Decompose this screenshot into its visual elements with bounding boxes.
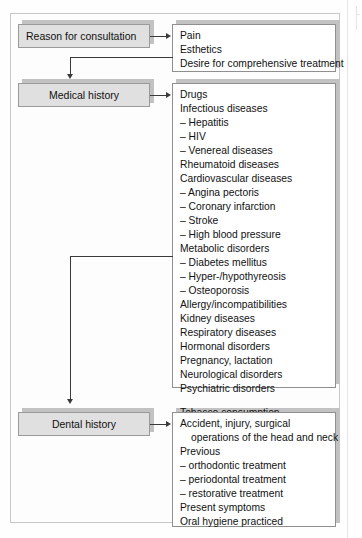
diagram-page: Reason for consultation Pain Esthetics D… [0,0,362,538]
list-item: Psychiatric disorders [180,382,330,396]
connector-flow2-vertical [70,256,71,400]
connector-reason-to-list [150,36,166,37]
list-item: Metabolic disorders [180,242,330,256]
list-item: – HIV [180,130,330,144]
list-item: Neurological disorders [180,368,330,382]
list-item: Respiratory diseases [180,326,330,340]
list-item: Infectious diseases [180,102,330,116]
scan-edge-artifact [356,14,360,15]
list-box-medical-history: Drugs Infectious diseases – Hepatitis – … [172,83,336,388]
list-item: Previous [180,445,330,459]
list-item: – High blood pressure [180,228,330,242]
scan-edge-artifact [347,0,348,538]
list-item-spacer [180,396,330,406]
list-item: – periodontal treatment [180,473,330,487]
list-box-reason-for-consultation: Pain Esthetics Desire for comprehensive … [172,24,336,72]
list-item: – Diabetes mellitus [180,256,330,270]
list-item: Drugs [180,88,330,102]
list-item: – Hepatitis [180,116,330,130]
connector-flow2-horizontal [70,256,173,257]
list-item-continuation: operations of the head and neck [180,431,330,445]
list-item: – Osteoporosis [180,284,330,298]
list-item: Kidney diseases [180,312,330,326]
list-item: – Coronary infarction [180,200,330,214]
label-box-medical-history[interactable]: Medical history [18,83,150,107]
connector-dental-to-list [150,424,166,425]
scan-edge-artifact [356,6,357,30]
label-text-medical-history: Medical history [19,89,149,101]
list-item: Present symptoms [180,501,330,515]
list-item: Esthetics [180,43,330,57]
list-item: – Hyper-/hypothyreosis [180,270,330,284]
arrow-down-to-dental-history [67,399,73,404]
list-item: Pain [180,29,330,43]
arrow-down-to-medical-history [67,74,73,79]
list-item: Accident, injury, surgical [180,417,330,431]
label-box-dental-history[interactable]: Dental history [18,412,150,436]
label-text-reason-for-consultation: Reason for consultation [19,30,149,42]
arrow-right-reason [166,33,171,39]
list-item: – Angina pectoris [180,186,330,200]
arrow-right-medical [166,92,171,98]
list-item: Cardiovascular diseases [180,172,330,186]
list-box-dental-history: Accident, injury, surgical operations of… [172,412,336,527]
list-item: Oral hygiene practiced [180,515,330,529]
connector-medical-to-list [150,95,166,96]
list-item: Allergy/incompatibilities [180,298,330,312]
label-box-reason-for-consultation[interactable]: Reason for consultation [18,24,150,48]
list-dental-items: Accident, injury, surgical operations of… [180,417,330,529]
list-item: – Venereal diseases [180,144,330,158]
list-item: – orthodontic treatment [180,459,330,473]
list-item: Desire for comprehensive treatment [180,57,330,71]
list-reason-items: Pain Esthetics Desire for comprehensive … [180,29,330,71]
list-item: Hormonal disorders [180,340,330,354]
list-item: Rheumatoid diseases [180,158,330,172]
arrow-right-dental [166,421,171,427]
label-text-dental-history: Dental history [19,418,149,430]
list-item: Pregnancy, lactation [180,354,330,368]
connector-flow1-horizontal [70,57,173,58]
connector-flow1-vertical [70,57,71,75]
list-item: – Stroke [180,214,330,228]
list-item: – restorative treatment [180,487,330,501]
list-medical-items: Drugs Infectious diseases – Hepatitis – … [180,88,330,420]
